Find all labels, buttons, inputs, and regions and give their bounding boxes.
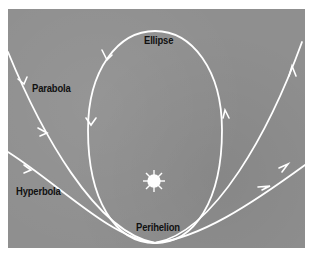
arrow-icon: [279, 164, 288, 172]
arrow-icon: [289, 66, 296, 76]
hyperbola-label: Hyperbola: [16, 185, 61, 197]
arrow-icon: [38, 128, 47, 136]
parabola-orbit: [8, 42, 302, 243]
ellipse-label: Ellipse: [144, 34, 173, 46]
arrow-icon: [258, 186, 270, 190]
perihelion-label: Perihelion: [136, 221, 180, 233]
arrow-icon: [223, 110, 229, 118]
sun-icon: [143, 170, 165, 192]
ellipse-orbit: [88, 31, 222, 243]
parabola-label: Parabola: [32, 82, 71, 94]
